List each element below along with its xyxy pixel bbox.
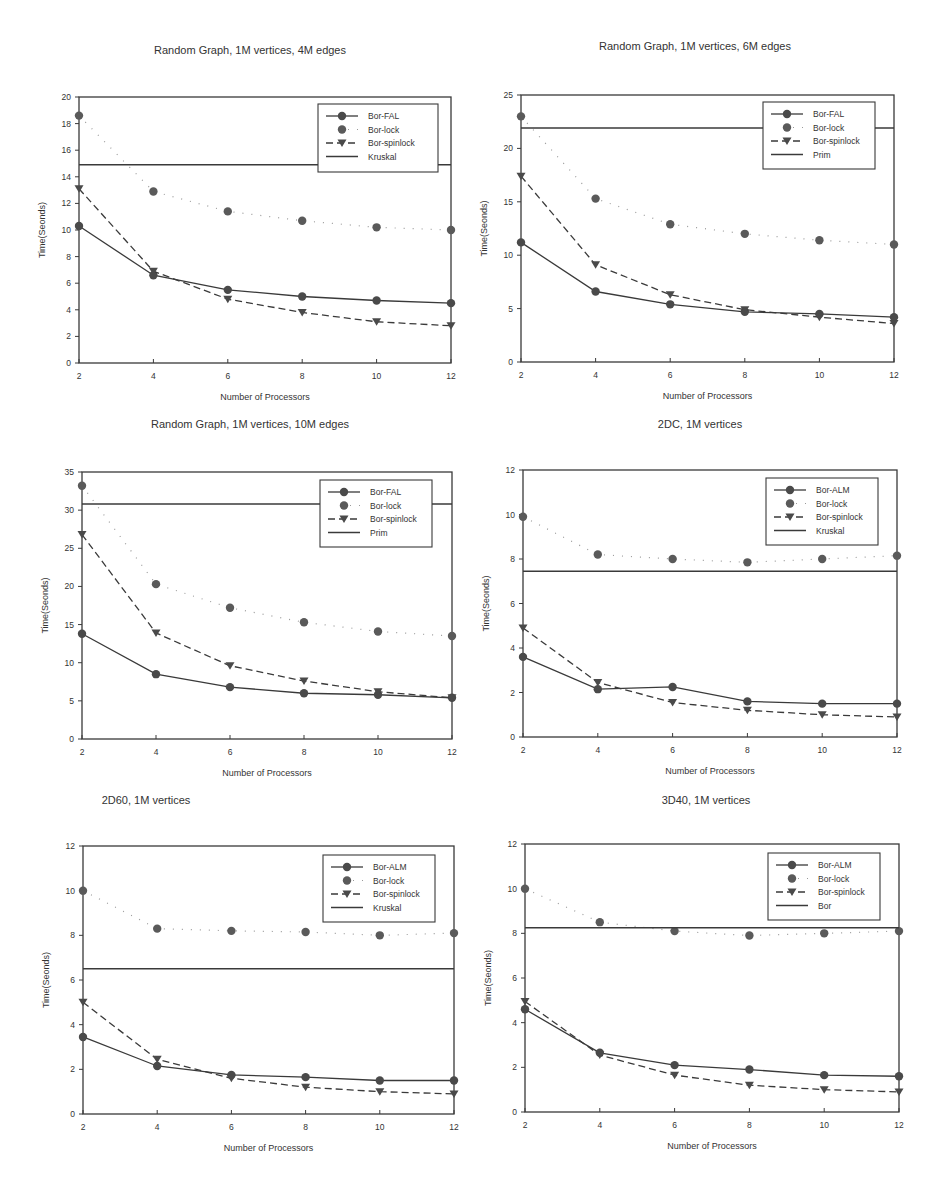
y-tick-label: 0 (512, 1107, 517, 1117)
x-tick-label: 6 (672, 1120, 677, 1130)
y-tick-label: 10 (508, 884, 518, 894)
legend-label: Bor-ALM (818, 860, 852, 870)
circle-marker (745, 1065, 753, 1073)
circle-marker (670, 1061, 678, 1069)
y-tick-label: 2 (512, 1062, 517, 1072)
circle-marker (895, 1072, 903, 1080)
x-tick-label: 12 (894, 1120, 904, 1130)
circle-marker (521, 884, 529, 892)
x-tick-label: 2 (523, 1120, 528, 1130)
triangle-marker (670, 1072, 679, 1080)
circle-marker (820, 929, 828, 937)
circle-marker (521, 1005, 529, 1013)
line-chart: 02468101224681012Number of ProcessorsTim… (0, 0, 945, 1187)
circle-marker (820, 1071, 828, 1079)
y-axis-label: Time(Seonds) (483, 950, 493, 1006)
chart-panel-3d40: 3D40, 1M vertices 02468101224681012Numbe… (0, 0, 945, 1187)
legend-marker-icon (788, 861, 796, 869)
series-line (525, 1009, 899, 1076)
circle-marker (596, 918, 604, 926)
x-tick-label: 4 (597, 1120, 602, 1130)
legend-marker-icon (788, 874, 796, 882)
series-bor-spinlock (521, 998, 904, 1096)
legend: Bor-ALMBor-lockBor-spinlockBor (768, 853, 880, 920)
x-tick-label: 8 (747, 1120, 752, 1130)
y-tick-label: 12 (508, 839, 518, 849)
series-bor-alm (521, 1005, 903, 1080)
legend-label: Bor (818, 901, 831, 911)
circle-marker (745, 931, 753, 939)
x-tick-label: 10 (819, 1120, 829, 1130)
series-line (525, 1001, 899, 1091)
legend-label: Bor-spinlock (818, 887, 866, 897)
legend-label: Bor-lock (818, 874, 850, 884)
y-axis: 024681012 (508, 839, 525, 1117)
x-axis: 24681012 (523, 1108, 904, 1130)
y-tick-label: 6 (512, 973, 517, 983)
y-tick-label: 4 (512, 1018, 517, 1028)
x-axis-label: Number of Processors (667, 1141, 757, 1151)
y-tick-label: 8 (512, 928, 517, 938)
